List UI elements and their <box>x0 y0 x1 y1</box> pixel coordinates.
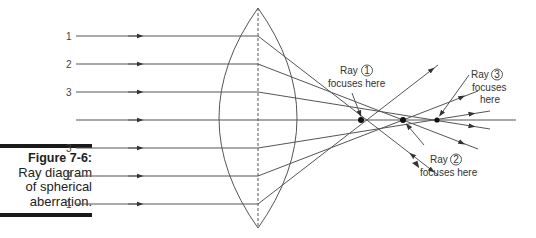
ray-label-2-top: 2 <box>66 59 72 70</box>
ray-2-annotation-prefix: Ray <box>430 154 448 165</box>
refracted-ray-3-top <box>258 92 490 129</box>
ray-label-2-bottom: 2 <box>66 171 72 182</box>
ray-label-3-bottom: 3 <box>66 143 72 154</box>
ray-2-annotation-text: focuses here <box>420 167 478 178</box>
refracted-ray-1-top <box>258 36 438 175</box>
ray-3-annotation-line2: focuses <box>472 82 506 93</box>
ray-3-annotation-prefix: Ray <box>471 69 489 80</box>
refracted-ray-3-bottom <box>258 111 490 148</box>
ray-label-1-top: 1 <box>66 31 72 42</box>
ray-2-number: 2 <box>453 154 459 165</box>
leader-ray-1 <box>352 93 360 114</box>
focal-point-ray-1 <box>358 117 364 123</box>
leader-ray-2 <box>408 126 424 145</box>
ray-3-number: 3 <box>494 69 500 80</box>
ray-3-annotation-line3: here <box>480 94 500 105</box>
refracted-ray-2-top <box>258 64 478 149</box>
ray-diagram: 1 2 3 3 2 1 Ray 1 focuses here Ray 2 foc… <box>0 0 536 238</box>
leader-ray-3 <box>441 75 469 114</box>
focal-point-ray-3 <box>434 117 439 122</box>
ray-1-number: 1 <box>364 65 370 76</box>
ray-1-annotation-prefix: Ray <box>340 65 358 76</box>
focal-point-ray-2 <box>400 117 406 123</box>
ray-label-1-bottom: 1 <box>66 199 72 210</box>
ray-1-annotation-text: focuses here <box>328 78 386 89</box>
ray-label-3-top: 3 <box>66 87 72 98</box>
